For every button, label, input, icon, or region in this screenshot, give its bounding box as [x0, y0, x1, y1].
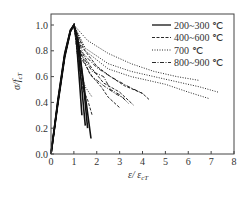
x-tick-label: 3 — [117, 156, 122, 167]
y-tick-label: 1.0 — [36, 20, 49, 31]
series-curve — [51, 25, 124, 154]
legend: 200~300 ℃400~600 ℃700 ℃800~900 ℃ — [152, 20, 223, 69]
stress-strain-chart: 012345678 0.00.20.40.60.81.0 ε/ εcT σ/fc… — [0, 0, 248, 197]
legend-label: 800~900 ℃ — [174, 57, 223, 68]
x-tick-label: 2 — [94, 156, 99, 167]
x-tick-label: 4 — [140, 156, 145, 167]
series-curve — [51, 25, 92, 154]
series-curve — [51, 25, 91, 154]
x-tick-label: 8 — [232, 156, 237, 167]
x-tick-label: 6 — [186, 156, 191, 167]
y-tick-label: 0.0 — [36, 149, 49, 160]
y-axis-title: σ/fcT — [11, 71, 24, 90]
x-tick-label: 5 — [163, 156, 168, 167]
series-curve — [51, 25, 133, 154]
legend-label: 400~600 ℃ — [174, 32, 223, 43]
x-tick-label: 7 — [209, 156, 214, 167]
series-curve — [51, 25, 143, 154]
x-tick-label: 1 — [71, 156, 76, 167]
x-axis-title: ε/ εcT — [128, 169, 149, 182]
legend-label: 700 ℃ — [174, 45, 203, 56]
legend-label: 200~300 ℃ — [174, 20, 223, 31]
y-tick-label: 0.2 — [36, 123, 49, 134]
y-tick-label: 0.4 — [36, 97, 49, 108]
x-tick-label: 0 — [49, 156, 54, 167]
series-curve — [51, 25, 92, 154]
y-tick-label: 0.8 — [36, 45, 49, 56]
x-axis-ticks: 012345678 — [49, 151, 237, 167]
y-tick-label: 0.6 — [36, 71, 49, 82]
